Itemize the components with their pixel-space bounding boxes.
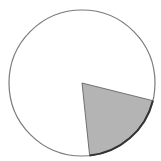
pie-chart (0, 0, 161, 161)
